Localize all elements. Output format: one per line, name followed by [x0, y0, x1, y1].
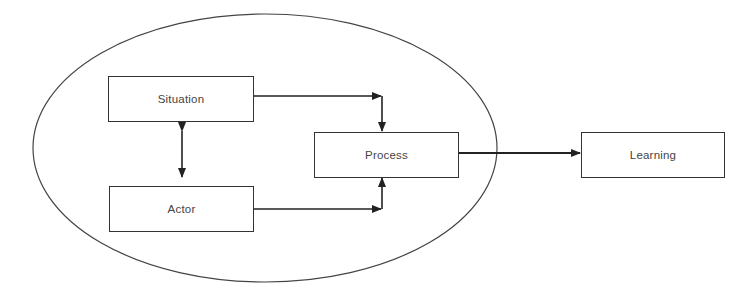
node-process: Process	[314, 132, 459, 178]
node-situation: Situation	[108, 76, 254, 122]
node-actor-label: Actor	[168, 203, 196, 215]
node-situation-label: Situation	[158, 93, 205, 105]
node-process-label: Process	[365, 149, 408, 161]
node-actor: Actor	[109, 186, 254, 232]
node-learning: Learning	[581, 132, 725, 178]
node-learning-label: Learning	[630, 149, 676, 161]
